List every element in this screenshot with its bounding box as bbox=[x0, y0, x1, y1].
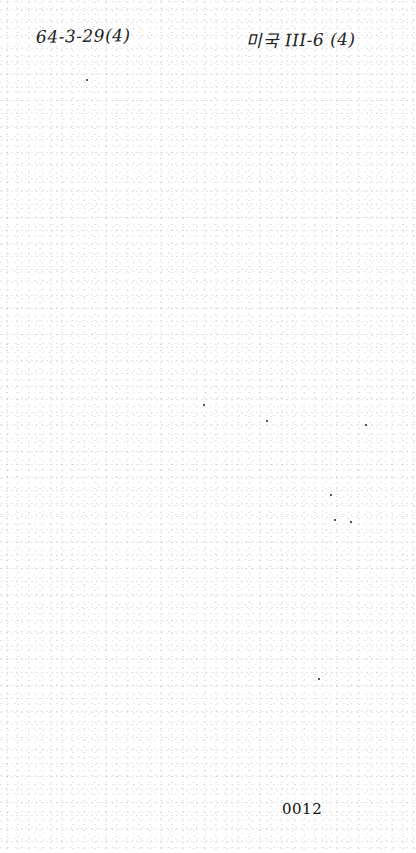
scanned-page: 64-3-29(4) 미국 III-6 (4) 0012 bbox=[0, 0, 416, 853]
handwritten-file-number: 64-3-29(4) bbox=[36, 25, 131, 47]
scan-speck bbox=[203, 404, 205, 406]
scan-speck bbox=[365, 424, 367, 426]
scan-speck bbox=[334, 519, 336, 521]
scan-speck bbox=[330, 494, 332, 496]
handwritten-classification-code: 미국 III-6 (4) bbox=[246, 25, 356, 52]
scan-speck bbox=[350, 521, 352, 523]
scan-speck bbox=[86, 79, 88, 81]
page-number: 0012 bbox=[282, 800, 322, 818]
blank-body bbox=[20, 80, 396, 773]
scan-speck bbox=[318, 678, 320, 680]
scan-speck bbox=[266, 420, 268, 422]
